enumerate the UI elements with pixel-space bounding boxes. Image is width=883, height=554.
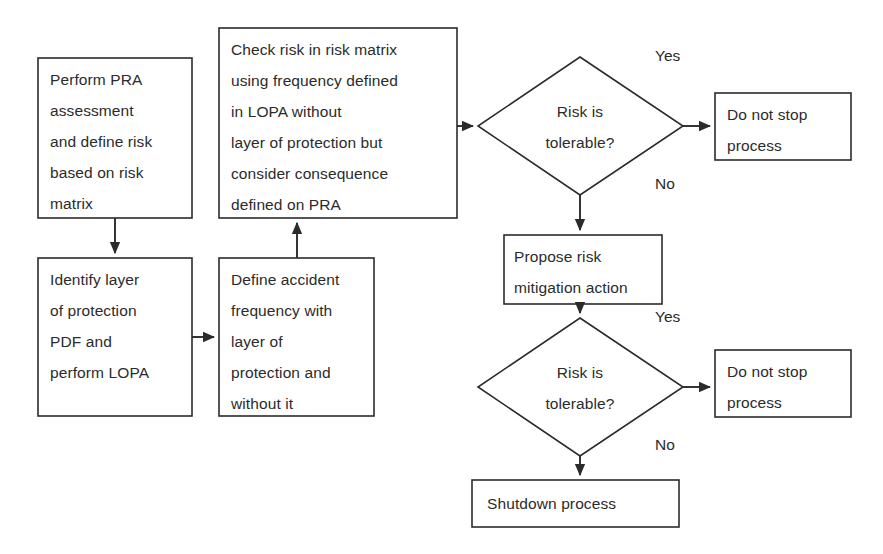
node-decision-two[interactable] bbox=[478, 318, 683, 456]
flowchart-canvas: Perform PRA assessment and define risk b… bbox=[0, 0, 883, 554]
node-identify-layer[interactable] bbox=[38, 258, 192, 416]
node-do-not-stop-one[interactable] bbox=[715, 93, 851, 160]
node-decision-one[interactable] bbox=[478, 57, 683, 195]
node-shutdown[interactable] bbox=[472, 480, 679, 527]
node-propose-mitigation[interactable] bbox=[504, 235, 662, 304]
node-check-risk[interactable] bbox=[219, 28, 457, 218]
node-do-not-stop-two[interactable] bbox=[715, 350, 851, 417]
node-perform-pra[interactable] bbox=[38, 58, 192, 218]
node-define-accident[interactable] bbox=[219, 258, 374, 416]
